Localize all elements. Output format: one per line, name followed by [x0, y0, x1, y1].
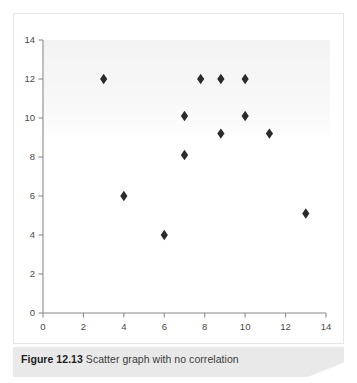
data-point-marker: [242, 111, 249, 121]
data-points: [100, 74, 309, 240]
x-tick-label: 0: [40, 321, 45, 332]
y-tick-label: 12: [24, 73, 35, 84]
y-tick-label: 4: [30, 229, 35, 240]
y-tick-label: 0: [30, 307, 35, 318]
data-point-marker: [302, 208, 309, 218]
data-point-marker: [217, 128, 224, 138]
data-point-marker: [197, 74, 204, 84]
data-point-marker: [100, 74, 107, 84]
x-tick-label: 10: [240, 321, 251, 332]
data-point-marker: [266, 128, 273, 138]
x-axis: 02468101214: [40, 313, 331, 332]
x-tick-label: 2: [81, 321, 86, 332]
data-point-marker: [161, 230, 168, 240]
caption-description: Scatter graph with no correlation: [86, 353, 239, 365]
x-tick-label: 14: [321, 321, 332, 332]
data-point-marker: [181, 111, 188, 121]
data-point-marker: [242, 74, 249, 84]
x-tick-label: 6: [162, 321, 167, 332]
figure-container: 02468101214 02468101214 Figure 12.13 Sca…: [0, 0, 357, 383]
y-tick-label: 6: [30, 190, 35, 201]
y-tick-label: 2: [30, 268, 35, 279]
y-tick-label: 14: [24, 34, 35, 45]
figure-caption: Figure 12.13 Scatter graph with no corre…: [21, 353, 239, 365]
data-point-marker: [181, 150, 188, 160]
x-tick-label: 4: [121, 321, 126, 332]
x-tick-label: 12: [280, 321, 291, 332]
y-tick-label: 10: [24, 112, 35, 123]
scatter-plot: 02468101214 02468101214: [14, 14, 345, 345]
y-axis: 02468101214: [24, 34, 43, 318]
caption-label: Figure 12.13: [21, 353, 83, 365]
y-tick-label: 8: [30, 151, 35, 162]
x-tick-label: 8: [202, 321, 207, 332]
data-point-marker: [120, 191, 127, 201]
data-point-marker: [217, 74, 224, 84]
chart-card: 02468101214 02468101214: [13, 13, 344, 344]
